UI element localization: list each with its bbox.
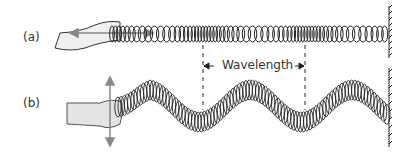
hand-b xyxy=(67,100,123,127)
wavelength-label: Wavelength xyxy=(220,58,295,72)
wave-diagram xyxy=(0,0,415,161)
hand-a xyxy=(55,21,120,50)
spring-b xyxy=(115,80,390,132)
wall xyxy=(389,5,392,147)
